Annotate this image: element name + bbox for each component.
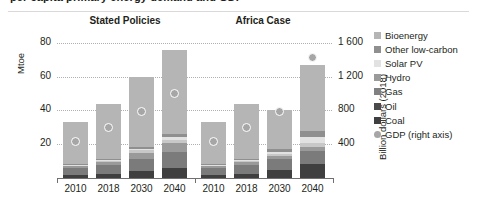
bar-segment-oil — [162, 152, 187, 168]
bar-segment-hydro — [234, 160, 259, 162]
x-tick-label-2040-stated-policies: 2040 — [153, 183, 197, 194]
bar-segment-solar-pv — [96, 160, 121, 161]
bar-segment-hydro — [267, 154, 292, 157]
chart-figure: per capita primary energy demand and GDP… — [0, 0, 477, 220]
legend-label: Solar PV — [385, 58, 423, 69]
bar-segment-other-low-carbon — [267, 149, 292, 152]
bar-segment-gas — [267, 156, 292, 159]
bar-segment-oil — [201, 168, 226, 175]
bar-segment-oil — [96, 165, 121, 174]
legend-item-gdp-right-axis[interactable]: GDP (right axis) — [374, 127, 477, 141]
bar-segment-other-low-carbon — [162, 134, 187, 137]
y-tick-left-40: 40 — [18, 103, 51, 114]
bar-segment-solar-pv — [162, 137, 187, 140]
bar-segment-hydro — [63, 165, 88, 166]
bar-2040-stated-policies — [162, 50, 187, 178]
y-tick-right-1200: 1 200 — [338, 70, 374, 81]
legend-item-bioenergy[interactable]: Bioenergy — [374, 28, 477, 42]
bar-segment-coal — [162, 168, 187, 178]
legend-label: Oil — [385, 101, 397, 112]
gdp-marker-2018-africa-case — [242, 123, 251, 132]
legend-label: Hydro — [385, 72, 410, 83]
group-title-stated-policies: Stated Policies — [65, 15, 185, 26]
bar-segment-coal — [267, 170, 292, 178]
bar-segment-bioenergy — [300, 65, 325, 131]
y-tick-left-20: 20 — [18, 137, 51, 148]
bar-segment-oil — [267, 159, 292, 170]
y-tick-right-400: 400 — [338, 137, 374, 148]
gridline-60 — [57, 77, 332, 78]
bar-segment-gas — [300, 147, 325, 151]
legend-swatch-icon — [374, 88, 381, 95]
bar-segment-gas — [201, 166, 226, 168]
gdp-marker-2040-africa-case — [308, 53, 317, 62]
bar-segment-coal — [129, 171, 154, 178]
gdp-marker-2030-stated-policies — [137, 107, 146, 116]
chart-title-clipped: per capita primary energy demand and GDP — [0, 0, 477, 11]
bar-segment-solar-pv — [234, 160, 259, 161]
bar-segment-other-low-carbon — [129, 147, 154, 149]
title-divider — [8, 11, 469, 12]
legend-dot-icon — [374, 131, 381, 138]
bar-segment-hydro — [300, 143, 325, 147]
chart-title-text: per capita primary energy demand and GDP — [10, 0, 243, 3]
legend-label: Other low-carbon — [385, 44, 458, 55]
bar-segment-other-low-carbon — [234, 159, 259, 160]
chart-legend: BioenergyOther low-carbonSolar PVHydroGa… — [374, 28, 477, 142]
legend-item-oil[interactable]: Oil — [374, 99, 477, 113]
bar-segment-solar-pv — [300, 137, 325, 142]
legend-swatch-icon — [374, 117, 381, 124]
gdp-marker-2030-africa-case — [275, 107, 284, 116]
bar-segment-hydro — [96, 160, 121, 162]
bar-segment-oil — [63, 168, 88, 175]
bar-segment-gas — [63, 166, 88, 168]
legend-swatch-icon — [374, 60, 381, 67]
legend-swatch-icon — [374, 103, 381, 110]
bar-segment-oil — [300, 151, 325, 164]
y-tick-left-60: 60 — [18, 70, 51, 81]
bar-segment-hydro — [162, 140, 187, 143]
legend-label: GDP (right axis) — [385, 129, 452, 140]
legend-item-gas[interactable]: Gas — [374, 85, 477, 99]
group-title-africa-case: Africa Case — [203, 15, 323, 26]
legend-item-hydro[interactable]: Hydro — [374, 71, 477, 85]
bar-2030-stated-policies — [129, 77, 154, 178]
plot-area — [57, 26, 332, 178]
bar-segment-hydro — [201, 165, 226, 166]
bar-segment-hydro — [129, 150, 154, 153]
bar-segment-coal — [300, 164, 325, 178]
y-tick-right-1600: 1 600 — [338, 36, 374, 47]
legend-swatch-icon — [374, 46, 381, 53]
legend-label: Bioenergy — [385, 30, 428, 41]
bar-segment-solar-pv — [129, 149, 154, 150]
legend-item-other-low-carbon[interactable]: Other low-carbon — [374, 42, 477, 56]
gdp-marker-2018-stated-policies — [104, 123, 113, 132]
bar-segment-other-low-carbon — [300, 131, 325, 138]
bar-segment-other-low-carbon — [63, 164, 88, 165]
legend-swatch-icon — [374, 32, 381, 39]
bar-segment-gas — [96, 162, 121, 165]
legend-item-solar-pv[interactable]: Solar PV — [374, 56, 477, 70]
y-tick-right-800: 800 — [338, 103, 374, 114]
bar-segment-gas — [129, 153, 154, 159]
bar-2030-africa-case — [267, 110, 292, 178]
bar-segment-bioenergy — [267, 110, 292, 149]
bar-segment-gas — [162, 143, 187, 151]
bar-2018-stated-policies — [96, 104, 121, 178]
legend-label: Coal — [385, 115, 405, 126]
bar-segment-oil — [129, 159, 154, 172]
gdp-marker-2040-stated-policies — [170, 89, 179, 98]
bar-2010-africa-case — [201, 122, 226, 178]
x-tick-label-2040-africa-case: 2040 — [291, 183, 335, 194]
gridline-80 — [57, 43, 332, 44]
bar-2010-stated-policies — [63, 122, 88, 178]
bar-2040-africa-case — [300, 65, 325, 178]
bar-segment-solar-pv — [267, 152, 292, 154]
bar-segment-oil — [234, 165, 259, 174]
legend-item-coal[interactable]: Coal — [374, 113, 477, 127]
bar-segment-other-low-carbon — [96, 159, 121, 160]
bar-segment-other-low-carbon — [201, 164, 226, 165]
legend-label: Gas — [385, 86, 402, 97]
y-tick-left-80: 80 — [18, 36, 51, 47]
bar-segment-gas — [234, 162, 259, 165]
